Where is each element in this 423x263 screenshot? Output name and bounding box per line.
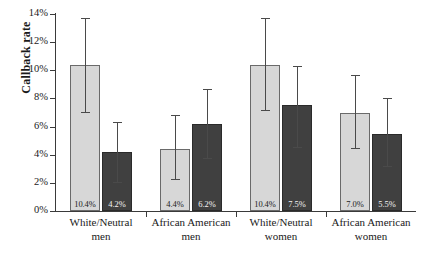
- plot-area: 10.4%4.2%4.4%6.2%10.4%7.5%7.0%5.5%: [56, 14, 416, 211]
- error-bar-stem: [207, 89, 208, 159]
- error-bar-cap-bottom: [171, 179, 180, 180]
- error-bar-cap-top: [293, 66, 302, 67]
- category-label: African Americanmen: [146, 216, 236, 244]
- error-bar-cap-top: [113, 122, 122, 123]
- category-label-line: African American: [326, 216, 416, 230]
- bar-value-label: 4.2%: [103, 200, 131, 209]
- category-label-line: men: [146, 230, 236, 244]
- error-bar-stem: [117, 122, 118, 183]
- y-tick: [50, 211, 56, 212]
- error-bar-cap-top: [351, 75, 360, 76]
- error-bar: [340, 75, 370, 150]
- error-bar-stem: [265, 18, 266, 111]
- error-bar: [70, 18, 100, 112]
- bar-chart: Callback rate 0%2%4%6%8%10%12%14% 10.4%4…: [0, 0, 423, 263]
- y-tick-label: 6%: [8, 121, 48, 132]
- bar-value-label: 5.5%: [373, 200, 401, 209]
- y-tick-label: 4%: [8, 149, 48, 160]
- y-tick-label: 2%: [8, 177, 48, 188]
- y-tick-label: 8%: [8, 92, 48, 103]
- bar-group: 10.4%7.5%: [236, 14, 326, 211]
- error-bar: [192, 89, 222, 159]
- error-bar-cap-bottom: [81, 112, 90, 113]
- y-tick-label: 0%: [8, 205, 48, 216]
- error-bar-cap-bottom: [261, 110, 270, 111]
- category-label: White/Neutralwomen: [236, 216, 326, 244]
- category-label: African Americanwomen: [326, 216, 416, 244]
- bar-value-label: 7.0%: [341, 200, 369, 209]
- category-label-line: White/Neutral: [56, 216, 146, 230]
- bar-group: 4.4%6.2%: [146, 14, 236, 211]
- error-bar-cap-bottom: [383, 166, 392, 167]
- bar-value-label: 10.4%: [251, 200, 279, 209]
- error-bar-stem: [175, 115, 176, 180]
- error-bar-cap-top: [261, 18, 270, 19]
- bar-value-label: 4.4%: [161, 200, 189, 209]
- error-bar-cap-bottom: [203, 158, 212, 159]
- error-bar-cap-bottom: [351, 148, 360, 149]
- error-bar-cap-top: [203, 89, 212, 90]
- error-bar: [282, 66, 312, 148]
- bar-value-label: 7.5%: [283, 200, 311, 209]
- category-label-line: women: [236, 230, 326, 244]
- error-bar-cap-top: [171, 115, 180, 116]
- category-label-line: women: [326, 230, 416, 244]
- category-label-line: White/Neutral: [236, 216, 326, 230]
- error-bar: [102, 122, 132, 183]
- error-bar-stem: [297, 66, 298, 148]
- error-bar: [372, 98, 402, 167]
- error-bar-stem: [387, 98, 388, 167]
- y-tick-label: 12%: [8, 36, 48, 47]
- error-bar-stem: [355, 75, 356, 150]
- bar-value-label: 10.4%: [71, 200, 99, 209]
- error-bar: [250, 18, 280, 111]
- error-bar-cap-bottom: [113, 182, 122, 183]
- error-bar-stem: [85, 18, 86, 112]
- error-bar-cap-top: [383, 98, 392, 99]
- bar-value-label: 6.2%: [193, 200, 221, 209]
- error-bar: [160, 115, 190, 180]
- bar-group: 7.0%5.5%: [326, 14, 416, 211]
- category-label-line: African American: [146, 216, 236, 230]
- category-label-line: men: [56, 230, 146, 244]
- error-bar-cap-bottom: [293, 147, 302, 148]
- category-label: White/Neutralmen: [56, 216, 146, 244]
- y-tick-label: 14%: [8, 8, 48, 19]
- bar-group: 10.4%4.2%: [56, 14, 146, 211]
- y-tick-label: 10%: [8, 64, 48, 75]
- error-bar-cap-top: [81, 18, 90, 19]
